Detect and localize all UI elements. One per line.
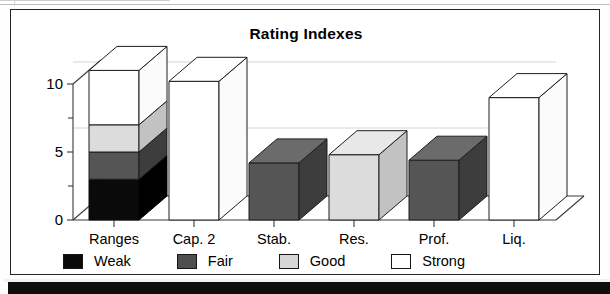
bar-stab[interactable] — [249, 139, 327, 220]
legend-label-weak: Weak — [94, 253, 131, 269]
legend-item-good[interactable]: Good — [279, 253, 391, 269]
x-label-ranges: Ranges — [89, 231, 139, 247]
scan-edge-rule-top-left — [0, 0, 170, 1]
y-tick-label-10: 10 — [46, 75, 63, 92]
screenshot-root: Rating Indexes — [0, 0, 610, 294]
chart-legend: Weak Fair Good Strong — [63, 250, 563, 272]
x-label-stab: Stab. — [257, 231, 291, 247]
legend-swatch-good — [279, 254, 299, 269]
chart-plot-area: 0 5 10 — [11, 10, 601, 276]
y-tick-label-0: 0 — [55, 211, 63, 228]
legend-item-fair[interactable]: Fair — [177, 253, 279, 269]
bar-liq[interactable] — [489, 74, 567, 220]
y-tick-label-5: 5 — [55, 143, 63, 160]
legend-item-weak[interactable]: Weak — [63, 253, 177, 269]
scan-edge-corner-mark — [14, 0, 15, 6]
x-label-cap2: Cap. 2 — [173, 231, 216, 247]
legend-swatch-weak — [63, 254, 83, 269]
bar-cap2[interactable] — [169, 57, 247, 220]
x-axis-ticks — [114, 220, 514, 227]
bar-ranges[interactable] — [89, 46, 167, 220]
x-label-liq: Liq. — [502, 231, 525, 247]
x-label-prof: Prof. — [419, 231, 450, 247]
x-label-res: Res. — [339, 231, 369, 247]
scan-edge-rule-top — [0, 4, 610, 5]
chart-svg: 0 5 10 — [11, 10, 601, 276]
legend-swatch-fair — [177, 254, 197, 269]
bar-prof[interactable] — [409, 136, 487, 220]
legend-label-strong: Strong — [422, 253, 465, 269]
chart-frame: Rating Indexes — [10, 9, 600, 275]
legend-label-fair: Fair — [208, 253, 233, 269]
legend-item-strong[interactable]: Strong — [391, 253, 511, 269]
legend-label-good: Good — [310, 253, 345, 269]
legend-swatch-strong — [391, 254, 411, 269]
bar-res[interactable] — [329, 131, 407, 220]
scan-edge-band-bottom — [8, 282, 610, 294]
